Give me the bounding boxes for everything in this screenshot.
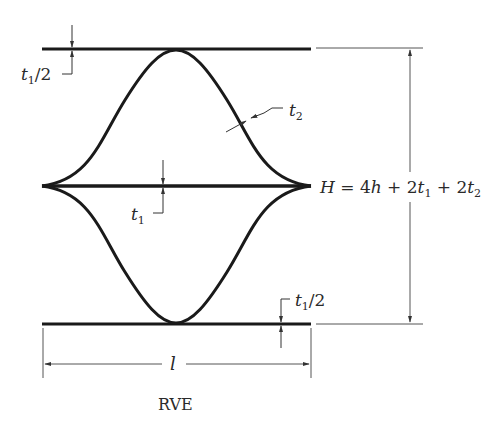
center-thickness-leader [153, 200, 163, 213]
height-formula: H = 4h + 2t1 + 2t2 [319, 177, 481, 200]
curve-thickness-label: t2 [289, 100, 303, 123]
bottom-thickness-leader [281, 299, 290, 311]
center-thickness-label: t1 [131, 204, 145, 227]
upper-curved-core [42, 50, 311, 186]
curve-thickness-arrow-out [251, 113, 264, 118]
length-label: l [170, 353, 176, 374]
curve-thickness-leader [264, 108, 283, 113]
top-thickness-label: t1/2 [21, 64, 51, 87]
lower-curved-core [42, 186, 311, 323]
top-thickness-leader [62, 62, 72, 74]
rve-diagram: t1/2 t2 t1 H = 4h + 2t1 + 2t2 t1/2 l RVE [0, 0, 496, 424]
rve-caption: RVE [158, 395, 193, 414]
bottom-thickness-label: t1/2 [295, 290, 325, 313]
